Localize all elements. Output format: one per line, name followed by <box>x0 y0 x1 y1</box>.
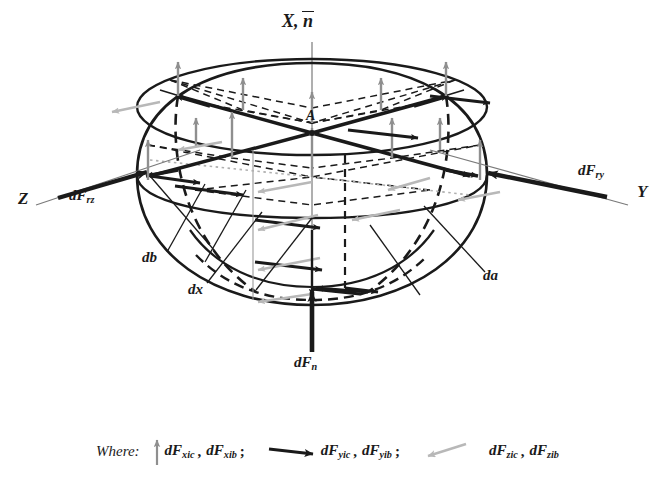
vector-dF-ry-label: dFry <box>578 163 604 180</box>
legend-swatch-right-arrow-black <box>267 443 321 459</box>
legend-term-dFyic: dFyic <box>321 442 350 460</box>
point-A-label: A <box>306 109 315 123</box>
legend-semicolon-1: ; <box>240 443 245 460</box>
vector-dF-rz-label: dFrz <box>69 188 94 205</box>
legend-comma-3: , <box>521 443 525 460</box>
legend-term-dFxic: dFxic <box>165 442 195 460</box>
differential-da-label: da <box>483 268 498 283</box>
legend: Where: dFxic , dFxib ; <box>96 436 559 466</box>
legend-swatch-diagonal-arrow-lightgray <box>422 440 472 462</box>
legend-comma-1: , <box>198 443 202 460</box>
legend-term-dFzib: dFzib <box>530 442 559 460</box>
legend-term-dFzic: dFzic <box>489 442 518 460</box>
point-A-marker <box>309 130 315 136</box>
vector-dF-n-label: dFn <box>294 355 317 372</box>
legend-swatch-up-arrow-gray <box>149 436 165 466</box>
meridian-dashed-right <box>368 96 448 292</box>
differential-db-label: db <box>142 250 157 265</box>
legend-comma-2: , <box>353 443 357 460</box>
figure-canvas: X, n Z Y dFrz dFry dFn db dx da A Where: <box>0 0 663 490</box>
axis-x-label: X, n <box>282 12 313 30</box>
force-diagram-svg <box>0 0 663 490</box>
axis-y-label: Y <box>637 183 647 200</box>
legend-prefix: Where: <box>96 443 140 460</box>
legend-term-dFxib: dFxib <box>206 442 237 460</box>
differential-dx-label: dx <box>188 282 203 297</box>
legend-term-dFyib: dFyib <box>362 442 392 460</box>
legend-semicolon-2: ; <box>395 443 400 460</box>
axis-z-label: Z <box>18 190 28 207</box>
